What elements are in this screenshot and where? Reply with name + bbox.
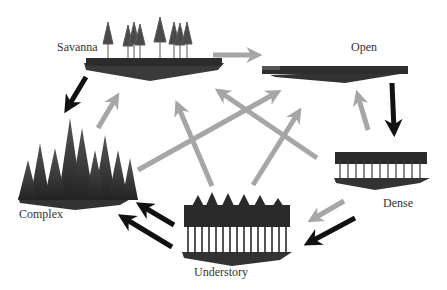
node-label-complex: Complex xyxy=(19,207,63,222)
node-label-savanna: Savanna xyxy=(57,40,98,55)
arrow-dense-to-understory-gray xyxy=(313,201,344,219)
arrow-open-to-dense xyxy=(392,83,394,130)
arrow-savanna-to-complex xyxy=(68,77,86,107)
understory-stand xyxy=(182,192,292,266)
dense-stand xyxy=(334,152,430,190)
node-label-open: Open xyxy=(351,40,377,55)
arrow-dense-to-open xyxy=(358,96,368,130)
arrow-dense-to-understory-black xyxy=(310,218,355,242)
arrow-understory-to-complex-1 xyxy=(142,206,174,225)
complex-stand xyxy=(18,118,138,210)
arrow-complex-to-open xyxy=(138,93,276,170)
savanna-stand xyxy=(84,17,224,81)
arrow-complex-to-savanna xyxy=(98,98,116,128)
node-label-dense: Dense xyxy=(383,196,413,211)
arrow-understory-to-open xyxy=(253,113,298,185)
open-stand xyxy=(262,66,408,83)
node-label-understory: Understory xyxy=(194,265,248,280)
arrow-dense-to-savanna xyxy=(220,92,317,158)
